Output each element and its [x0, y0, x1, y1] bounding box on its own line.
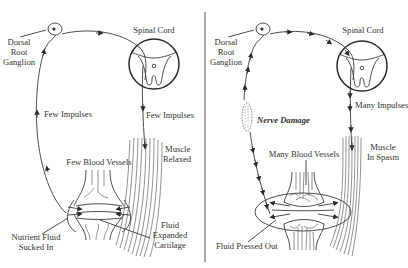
- ganglion-label-1: Dorsal: [8, 37, 32, 47]
- cartilage-label-1: Fluid: [161, 220, 180, 230]
- blood-vessels-label: Many Blood Vessels: [269, 149, 340, 159]
- nerve-damage-icon: [242, 103, 252, 131]
- panel-damaged: Dorsal Root Ganglion Nerve Damage Spinal: [210, 23, 408, 256]
- ganglion-label-3: Ganglion: [3, 57, 36, 67]
- muscle-label-1: Muscle: [165, 144, 190, 154]
- muscle-label-1: Muscle: [370, 142, 395, 152]
- muscle-label-2: In Spasm: [367, 152, 400, 162]
- ganglion-label-1: Dorsal: [215, 37, 239, 47]
- blood-vessels-label: Few Blood Vessels: [66, 157, 132, 167]
- spinal-cord-icon: [337, 41, 387, 91]
- panel-normal: Dorsal Root Ganglion Spinal Cord Few Imp…: [3, 23, 195, 257]
- ganglion-label-3: Ganglion: [210, 57, 243, 67]
- spinal-cord-label: Spinal Cord: [133, 25, 175, 35]
- nerve-damage-label: Nerve Damage: [256, 115, 310, 125]
- spinal-cord-label: Spinal Cord: [342, 25, 384, 35]
- afferent-impulses-label: Few Impulses: [44, 109, 93, 119]
- afferent-lower-path: [250, 132, 270, 214]
- nerve-joint-diagram: Dorsal Root Ganglion Spinal Cord Few Imp…: [0, 0, 408, 268]
- ganglion-label-2: Root: [218, 47, 235, 57]
- fluid-in-label-2: Sucked In: [19, 242, 54, 252]
- joint-normal-icon: [67, 170, 130, 240]
- efferent-impulses-label: Few Impulses: [146, 110, 195, 120]
- cartilage-label-3: Cartilage: [154, 240, 186, 250]
- efferent-impulses-label: Many Impulses: [355, 100, 408, 110]
- fluid-out-label: Fluid Pressed Out: [216, 241, 278, 251]
- afferent-nerve-path: [244, 52, 252, 100]
- ganglion-label-2: Root: [11, 47, 28, 57]
- afferent-nerve-path: [36, 52, 66, 213]
- ganglion-to-cord-path: [270, 31, 354, 80]
- cartilage-label-2: Expanded: [153, 230, 188, 240]
- fluid-in-label-1: Nutrient Fluid: [12, 232, 62, 242]
- spinal-cord-icon: [129, 39, 179, 89]
- ganglion-to-cord-path: [62, 31, 146, 80]
- muscle-label-2: Relaxed: [163, 154, 192, 164]
